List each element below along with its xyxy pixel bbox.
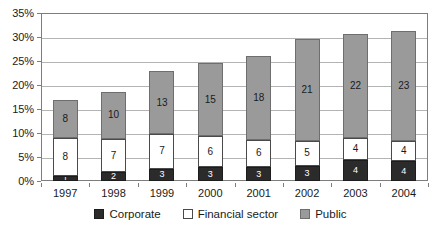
x-axis-tick-mark [186, 183, 187, 187]
x-axis-tick-mark [331, 183, 332, 187]
bar-segment-financial-sector[interactable]: 7 [101, 139, 126, 173]
bar-segment-value: 8 [62, 114, 68, 124]
bar-segment-value: 7 [111, 151, 117, 161]
bar-segment-value: 13 [156, 98, 167, 108]
bar-segment-public[interactable]: 13 [149, 71, 174, 134]
x-axis: 19971998199920002001200220032004 [41, 183, 428, 205]
bar-segment-value: 21 [302, 85, 313, 95]
legend-item-label: Financial sector [198, 208, 279, 220]
legend-item-corporate[interactable]: Corporate [94, 208, 160, 220]
bar-segment-corporate[interactable]: 4 [391, 161, 416, 181]
bar-segment-financial-sector[interactable]: 7 [149, 134, 174, 168]
bar-segment-public[interactable]: 18 [246, 56, 271, 140]
bar-segment-financial-sector[interactable]: 4 [343, 138, 368, 160]
bar-segment-value: 4 [401, 146, 407, 156]
bar-segment-public[interactable]: 10 [101, 92, 126, 139]
x-axis-tick-mark [428, 183, 429, 187]
x-axis-tick-label: 2003 [343, 187, 367, 199]
stacked-bar-chart: 0%5%10%15%20%25%30%35% 18827103713361536… [0, 0, 441, 241]
bar-segment-value: 4 [401, 167, 406, 176]
bar-group[interactable]: 2710 [101, 13, 126, 181]
bar-segment-value: 7 [159, 146, 165, 156]
y-axis-tick-label: 20% [12, 79, 34, 91]
bar-group[interactable]: 3521 [295, 13, 320, 181]
bar-segment-financial-sector[interactable]: 4 [391, 141, 416, 162]
bar-segment-financial-sector[interactable]: 6 [198, 136, 223, 167]
bar-segment-value: 15 [205, 95, 216, 105]
y-axis-tick-label: 10% [12, 127, 34, 139]
bar-segment-value: 22 [350, 81, 361, 91]
bar-segment-value: 3 [208, 170, 213, 179]
bar-segment-financial-sector[interactable]: 6 [246, 140, 271, 167]
bar-segment-value: 5 [304, 148, 310, 158]
y-axis-tick-label: 15% [12, 103, 34, 115]
bar-segment-value: 1 [63, 176, 68, 181]
bar-segment-value: 18 [253, 93, 264, 103]
bar-segment-corporate[interactable]: 3 [198, 167, 223, 181]
y-axis-tick-label: 5% [18, 151, 34, 163]
y-axis-tick-label: 30% [12, 31, 34, 43]
y-axis-tick-label: 25% [12, 55, 34, 67]
x-axis-tick-mark [380, 183, 381, 187]
bar-group[interactable]: 3615 [198, 13, 223, 181]
bar-segment-value: 2 [111, 172, 116, 181]
bar-segment-corporate[interactable]: 2 [101, 172, 126, 181]
x-axis-tick-mark [283, 183, 284, 187]
bar-segment-value: 3 [305, 169, 310, 178]
bar-segment-corporate[interactable]: 3 [246, 167, 271, 181]
x-axis-tick-mark [138, 183, 139, 187]
legend-item-label: Corporate [109, 208, 160, 220]
x-axis-tick-mark [41, 183, 42, 187]
chart-legend: CorporateFinancial sectorPublic [0, 208, 441, 220]
bar-segment-value: 4 [353, 144, 359, 154]
y-axis-tick-mark [37, 181, 41, 182]
x-axis-tick-label: 2000 [198, 187, 222, 199]
x-axis-tick-label: 1998 [101, 187, 125, 199]
bar-segment-value: 10 [108, 110, 119, 120]
bar-segment-public[interactable]: 21 [295, 39, 320, 140]
bar-segment-public[interactable]: 22 [343, 34, 368, 138]
x-axis-tick-label: 2001 [246, 187, 270, 199]
legend-swatch-icon [183, 209, 193, 219]
y-axis: 0%5%10%15%20%25%30%35% [0, 0, 41, 182]
x-axis-tick-label: 1999 [150, 187, 174, 199]
x-axis-tick-label: 2002 [295, 187, 319, 199]
bars-layer: 1882710371336153618352144224423 [41, 13, 428, 181]
bar-group[interactable]: 3618 [246, 13, 271, 181]
bar-segment-value: 6 [208, 147, 214, 157]
x-axis-tick-label: 2004 [392, 187, 416, 199]
bar-group[interactable]: 188 [53, 13, 78, 181]
bar-segment-public[interactable]: 8 [53, 100, 78, 137]
bar-segment-corporate[interactable]: 3 [295, 166, 320, 181]
legend-item-label: Public [315, 208, 346, 220]
bar-segment-value: 23 [398, 81, 409, 91]
bar-segment-value: 8 [62, 152, 68, 162]
x-axis-tick-mark [89, 183, 90, 187]
bar-segment-value: 6 [256, 148, 262, 158]
legend-swatch-icon [300, 209, 310, 219]
x-axis-tick-label: 1997 [53, 187, 77, 199]
bar-group[interactable]: 4422 [343, 13, 368, 181]
bar-group[interactable]: 4423 [391, 13, 416, 181]
bar-segment-value: 4 [353, 166, 358, 175]
legend-item-public[interactable]: Public [300, 208, 346, 220]
bar-segment-value: 3 [256, 170, 261, 179]
bar-segment-corporate[interactable]: 1 [53, 176, 78, 181]
bar-group[interactable]: 3713 [149, 13, 174, 181]
x-axis-tick-mark [235, 183, 236, 187]
bar-segment-value: 3 [159, 170, 164, 179]
bar-segment-public[interactable]: 23 [391, 31, 416, 141]
bar-segment-financial-sector[interactable]: 5 [295, 141, 320, 166]
legend-item-financial-sector[interactable]: Financial sector [183, 208, 279, 220]
bar-segment-financial-sector[interactable]: 8 [53, 138, 78, 176]
y-axis-tick-label: 35% [12, 7, 34, 19]
bar-segment-public[interactable]: 15 [198, 63, 223, 136]
bar-segment-corporate[interactable]: 3 [149, 169, 174, 181]
legend-swatch-icon [94, 209, 104, 219]
y-axis-tick-label: 0% [18, 175, 34, 187]
bar-segment-corporate[interactable]: 4 [343, 160, 368, 181]
